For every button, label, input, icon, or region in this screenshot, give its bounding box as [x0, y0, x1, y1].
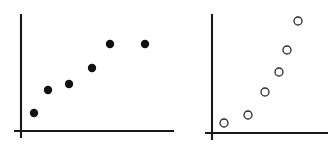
data-point-group-right	[220, 17, 302, 127]
data-point	[141, 40, 149, 48]
data-point	[65, 80, 73, 88]
data-point	[244, 111, 252, 119]
data-point	[261, 88, 269, 96]
data-point	[30, 109, 38, 117]
data-point-group-left	[30, 40, 149, 117]
data-point	[283, 46, 291, 54]
data-point	[294, 17, 302, 25]
data-point	[220, 119, 228, 127]
scatter-plot-right	[180, 0, 333, 155]
data-point	[106, 40, 114, 48]
axes-left	[14, 14, 174, 138]
scatter-plot-left	[0, 0, 180, 155]
data-point	[44, 86, 52, 94]
data-point	[88, 64, 96, 72]
data-point	[275, 68, 283, 76]
figure-root: Scatter plot with six solid black dots r…	[0, 0, 333, 155]
chart-panel-left: Scatter plot with six solid black dots r…	[0, 0, 180, 155]
chart-panel-right: Scatter plot with six open circles risin…	[180, 0, 333, 155]
